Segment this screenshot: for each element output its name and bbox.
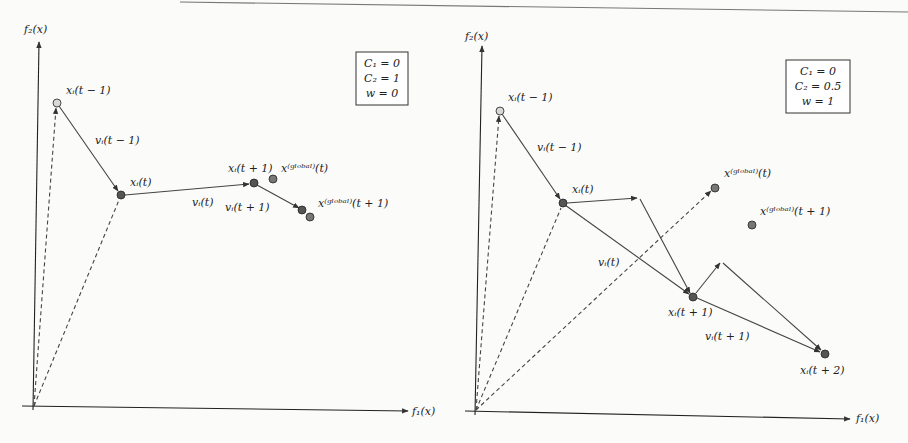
right-point-xi-t	[559, 199, 567, 207]
right-social-component-t	[640, 199, 690, 293]
left-label-xi-t: xᵢ(t)	[130, 176, 151, 189]
right-inertia-component-t	[567, 198, 637, 203]
left-point-xi-t-minus-1	[53, 99, 61, 107]
left-x-axis-label: f₁(x)	[411, 405, 435, 418]
right-y-axis-label: f₂(x)	[464, 30, 488, 43]
right-label-xi-t-plus-1: xᵢ(t + 1)	[668, 306, 713, 319]
pso-velocity-figure: f₂(x) f₁(x) C₁ = 0 C₂ = 1 w = 0 xᵢ(t − 1…	[0, 0, 908, 443]
right-label-xi-t: xᵢ(t)	[572, 183, 593, 196]
right-point-xi-t-plus-1	[689, 293, 697, 301]
right-label-v-t-minus-1: vᵢ(t − 1)	[537, 141, 582, 154]
right-label-xi-t-minus-1: xᵢ(t − 1)	[508, 91, 553, 104]
right-param-c1: C₁ = 0	[800, 65, 836, 78]
right-inertia-component-t-plus-1	[696, 263, 720, 293]
right-label-xi-t-plus-2: xᵢ(t + 2)	[800, 364, 845, 377]
left-velocity-vector-t-minus-1	[59, 106, 118, 191]
left-point-xglobal-t-plus-1	[306, 213, 314, 221]
right-velocity-vector-t-minus-1	[502, 114, 560, 199]
right-velocity-vector-t	[565, 205, 689, 294]
right-label-xglobal-t-plus-1: x⁽ᵍˡᵒᵇᵃˡ⁾(t + 1)	[760, 205, 830, 218]
right-point-xglobal-t-plus-1	[748, 221, 756, 229]
left-point-xi-t-plus-1	[250, 179, 258, 187]
left-label-v-t-minus-1: vᵢ(t − 1)	[95, 134, 140, 147]
right-panel: f₂(x) f₁(x) C₁ = 0 C₂ = 0.5 w = 1 x	[464, 30, 879, 425]
left-point-xi-t	[117, 191, 125, 199]
right-point-xglobal-t	[711, 184, 719, 192]
right-position-vector-xglobal-t	[476, 191, 711, 410]
right-velocity-vector-t-plus-1	[697, 298, 820, 352]
left-x-axis	[22, 406, 408, 411]
right-param-c2: C₂ = 0.5	[795, 80, 842, 93]
left-label-xi-t-minus-1: xᵢ(t − 1)	[66, 84, 111, 97]
right-position-vector-t	[476, 208, 561, 410]
right-label-xglobal-t: x⁽ᵍˡᵒᵇᵃˡ⁾(t)	[724, 167, 771, 180]
page-top-rule	[180, 2, 908, 12]
left-y-axis-label: f₂(x)	[23, 23, 47, 36]
left-param-c2: C₂ = 1	[364, 72, 400, 85]
left-label-xglobal-t-plus-1: x⁽ᵍˡᵒᵇᵃˡ⁾(t + 1)	[318, 197, 388, 210]
left-point-xi-t-plus-2	[298, 206, 306, 214]
left-panel: f₂(x) f₁(x) C₁ = 0 C₂ = 1 w = 0 xᵢ(t − 1…	[22, 23, 435, 418]
left-label-xglobal-t: x⁽ᵍˡᵒᵇᵃˡ⁾(t)	[281, 162, 328, 175]
left-label-xi-t-plus-1: xᵢ(t + 1)	[228, 162, 273, 175]
left-label-v-t-plus-1: vᵢ(t + 1)	[225, 201, 270, 214]
left-param-c1: C₁ = 0	[364, 57, 400, 70]
right-x-axis	[465, 411, 850, 419]
right-x-axis-label: f₁(x)	[855, 412, 879, 425]
right-y-axis	[475, 46, 482, 415]
right-param-w: w = 1	[802, 95, 835, 108]
right-point-xi-t-plus-2	[821, 350, 829, 358]
right-label-v-t: vᵢ(t)	[598, 256, 619, 269]
left-label-v-t: vᵢ(t)	[192, 196, 213, 209]
right-label-v-t-plus-1: vᵢ(t + 1)	[705, 330, 750, 343]
left-param-w: w = 0	[366, 87, 399, 100]
right-point-xi-t-minus-1	[496, 107, 504, 115]
left-point-xglobal-t	[269, 175, 277, 183]
